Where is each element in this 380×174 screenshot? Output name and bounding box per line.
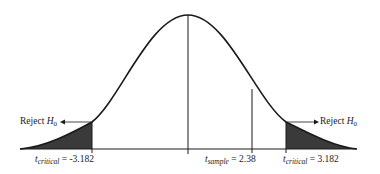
left-reject-label: Reject H0 xyxy=(20,117,57,127)
t-distribution-diagram xyxy=(0,0,380,174)
right-reject-label: Reject H0 xyxy=(320,117,357,127)
right-arrow-icon xyxy=(314,120,319,125)
left-arrow-icon xyxy=(60,120,65,125)
left-critical-label: tcritical = -3.182 xyxy=(35,155,94,165)
sample-label: tsample = 2.38 xyxy=(205,155,256,165)
right-critical-label: tcritical = 3.182 xyxy=(283,155,339,165)
